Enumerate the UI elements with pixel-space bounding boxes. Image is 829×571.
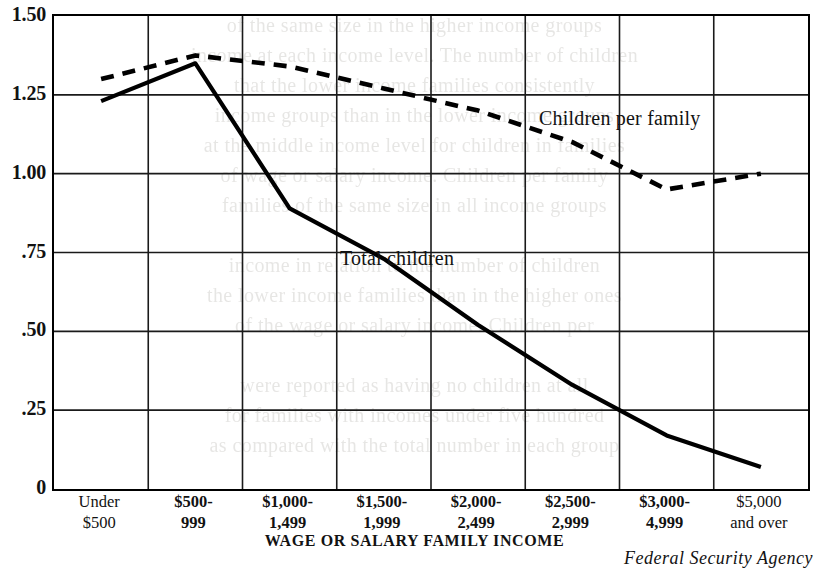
x-tick-line2: 1,999	[335, 513, 429, 534]
y-tick-label: 1.50	[0, 4, 46, 24]
x-tick-line1: $1,000-	[241, 492, 335, 513]
x-tick-line2: 999	[146, 513, 240, 534]
x-tick-line2: 2,999	[523, 513, 617, 534]
x-tick-line1: $500-	[146, 492, 240, 513]
x-tick-label: $1,500-1,999	[335, 492, 429, 534]
y-tick-label: .25	[0, 398, 46, 418]
x-tick-line2: 1,499	[241, 513, 335, 534]
y-tick-label: 1.00	[0, 162, 46, 182]
x-tick-label: $500-999	[146, 492, 240, 534]
x-tick-line1: $3,000-	[618, 492, 712, 513]
x-tick-line1: $5,000	[712, 492, 806, 513]
x-tick-line2: 4,999	[618, 513, 712, 534]
y-tick-label: 0	[0, 477, 46, 497]
y-tick-label: 1.25	[0, 83, 46, 103]
x-tick-label: $5,000and over	[712, 492, 806, 534]
x-axis-labels: Under$500$500-999$1,000-1,499$1,500-1,99…	[52, 492, 806, 534]
x-tick-label: $2,500-2,999	[523, 492, 617, 534]
x-tick-line2: $500	[52, 513, 146, 534]
x-tick-line2: 2,499	[429, 513, 523, 534]
x-tick-label: Under$500	[52, 492, 146, 534]
x-tick-line2: and over	[712, 513, 806, 534]
y-tick-label: .50	[0, 319, 46, 339]
x-tick-label: $3,000-4,999	[618, 492, 712, 534]
x-tick-line1: Under	[52, 492, 146, 513]
series-label-children-per-family: Children per family	[539, 107, 701, 130]
y-tick-label: .75	[0, 241, 46, 261]
x-tick-line1: $1,500-	[335, 492, 429, 513]
source-attribution: Federal Security Agency	[624, 548, 813, 569]
x-tick-line1: $2,500-	[523, 492, 617, 513]
x-tick-label: $2,000-2,499	[429, 492, 523, 534]
x-tick-label: $1,000-1,499	[241, 492, 335, 534]
x-tick-line1: $2,000-	[429, 492, 523, 513]
series-label-total-children: Total children	[340, 247, 454, 270]
